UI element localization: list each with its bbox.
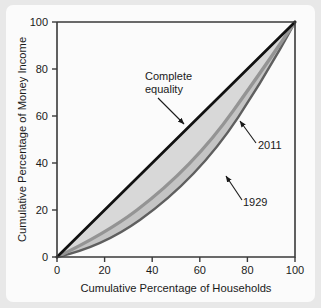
complete-equality-label-line1: Complete — [145, 70, 192, 82]
x-tick-label-100: 100 — [286, 264, 304, 276]
x-tick-label-0: 0 — [54, 264, 60, 276]
y-tick-label-20: 20 — [36, 204, 48, 216]
complete-equality-label-line2: equality — [145, 83, 183, 95]
x-axis-title: Cumulative Percentage of Households — [81, 282, 272, 294]
curve-1929-label: 1929 — [243, 196, 267, 208]
curve-1929-leader-line — [226, 176, 242, 200]
curve-2011-leader-line — [240, 121, 256, 143]
curve-2011-label: 2011 — [258, 139, 282, 151]
lorenz-curve-chart: 0 20 40 60 80 100 0 20 40 60 80 100 Cumu… — [0, 0, 321, 308]
complete-equality-leader-line — [158, 98, 184, 124]
y-tick-label-60: 60 — [36, 110, 48, 122]
x-tick-label-60: 60 — [194, 264, 206, 276]
annotation-curve-1929: 1929 — [226, 176, 267, 208]
y-tick-label-40: 40 — [36, 157, 48, 169]
y-tick-label-80: 80 — [36, 63, 48, 75]
x-tick-label-20: 20 — [98, 264, 110, 276]
y-axis-tick-labels: 0 20 40 60 80 100 — [30, 16, 48, 263]
annotation-complete-equality: Complete equality — [145, 70, 192, 124]
chart-svg: 0 20 40 60 80 100 0 20 40 60 80 100 Cumu… — [0, 0, 321, 308]
y-tick-label-100: 100 — [30, 16, 48, 28]
x-axis-tick-labels: 0 20 40 60 80 100 — [54, 264, 304, 276]
y-axis-title: Cumulative Percentage of Money Income — [16, 37, 28, 242]
x-tick-label-40: 40 — [146, 264, 158, 276]
y-tick-label-0: 0 — [42, 251, 48, 263]
annotation-curve-2011: 2011 — [240, 121, 282, 151]
x-tick-label-80: 80 — [241, 264, 253, 276]
